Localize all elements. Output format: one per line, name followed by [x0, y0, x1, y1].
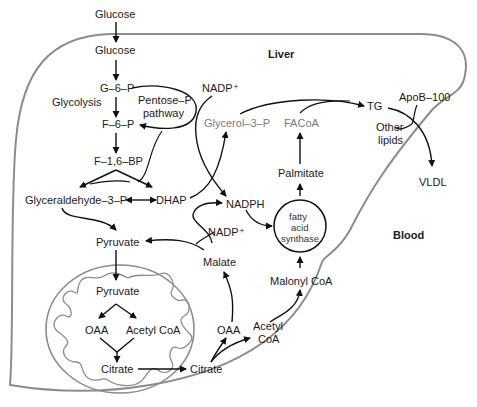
label-f6p: F–6–P: [102, 118, 134, 131]
label-f16bp: F–1,6–BP: [94, 155, 143, 168]
label-nadp-top: NADP⁺: [202, 82, 239, 95]
label-vldl: VLDL: [419, 176, 447, 189]
label-citrate-mito: Citrate: [101, 363, 133, 376]
label-citrate-cytosol: Citrate: [190, 363, 222, 376]
label-other: Other: [376, 121, 404, 134]
label-palmitate: Palmitate: [278, 167, 324, 180]
label-pentose-p: Pentose–P: [138, 94, 192, 107]
lipogenesis-diagram: Glucose Glucose G–6–P Glycolysis Pentose…: [0, 0, 477, 407]
label-fas-synthase: synthase: [281, 233, 319, 244]
label-glycerol-3-p: Glycerol–3–P: [204, 117, 270, 130]
label-glycolysis: Glycolysis: [52, 96, 102, 109]
label-malate: Malate: [203, 256, 236, 269]
label-coa-cytosol: CoA: [258, 333, 279, 346]
label-pentose-pathway: pathway: [143, 107, 184, 120]
label-glucose-blood: Glucose: [95, 8, 135, 21]
label-pyruvate-cytosol: Pyruvate: [96, 236, 139, 249]
label-glyceraldehyde-3-p: Glyceraldehyde–3–P: [25, 194, 127, 207]
label-lipids: lipids: [378, 134, 403, 147]
label-fas-fatty: fatty: [289, 211, 307, 222]
label-facoa: FACoA: [284, 117, 319, 130]
label-liver: Liver: [268, 48, 294, 61]
label-blood: Blood: [393, 229, 424, 242]
label-apob-100: ApoB–100: [399, 91, 450, 104]
label-malonyl-coa: Malonyl CoA: [270, 275, 332, 288]
label-oaa-cytosol: OAA: [217, 324, 240, 337]
label-tg: TG: [367, 100, 382, 113]
label-g6p: G–6–P: [100, 82, 134, 95]
label-glucose-liver: Glucose: [95, 44, 135, 57]
label-nadp-mid: NADP⁺: [208, 226, 245, 239]
label-dhap: DHAP: [156, 194, 187, 207]
label-fas-acid: acid: [291, 222, 308, 233]
label-oaa-mito: OAA: [85, 324, 108, 337]
label-pyruvate-mito: Pyruvate: [96, 285, 139, 298]
label-acetyl-cytosol: Acetyl: [253, 320, 283, 333]
label-nadph: NADPH: [226, 198, 265, 211]
label-acetyl-coa-mito: Acetyl CoA: [126, 324, 180, 337]
